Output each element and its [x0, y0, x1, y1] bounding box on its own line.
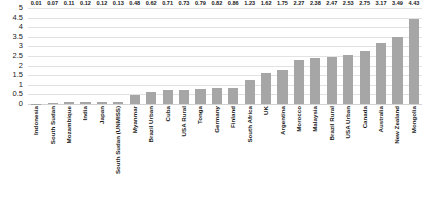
bar-slot: 0.79	[192, 8, 208, 104]
x-axis-slot: Finland	[225, 106, 241, 212]
bar-slot: 0.11	[61, 8, 77, 104]
bar[interactable]: 0.86	[228, 88, 238, 105]
x-axis-tick-label: Malaysia	[312, 106, 318, 132]
bar[interactable]: 3.49	[392, 37, 402, 104]
bar-slot: 2.53	[340, 8, 356, 104]
x-axis-tick-label: Argentina	[280, 106, 286, 135]
x-axis-slot: India	[77, 106, 93, 212]
x-axis-slot: Argentina	[274, 106, 290, 212]
x-axis-tick-label: South Sudan (UNMISS)	[115, 106, 121, 174]
bar[interactable]: 2.27	[294, 60, 304, 104]
x-axis: IndonesiaSouth SudanMozambiqueIndiaJapan…	[28, 106, 422, 212]
x-axis-slot: USA Urban	[340, 106, 356, 212]
x-axis-tick-label: Australia	[378, 106, 384, 132]
y-axis-tick-label: 3	[19, 43, 23, 51]
x-axis-tick-label: USA Urban	[345, 106, 351, 138]
bar-slot: 4.43	[406, 8, 422, 104]
bar[interactable]: 0.12	[97, 102, 107, 104]
bar[interactable]: 0.07	[48, 103, 58, 104]
bar-value-label: 2.38	[310, 1, 321, 7]
bar[interactable]: 2.53	[343, 55, 353, 104]
x-axis-slot: Tonga	[192, 106, 208, 212]
bar[interactable]: 1.62	[261, 73, 271, 104]
bar[interactable]: 0.48	[130, 95, 140, 104]
x-axis-slot: Canada	[356, 106, 372, 212]
bar-value-label: 1.75	[277, 1, 288, 7]
x-axis-slot: Brazil Rural	[324, 106, 340, 212]
bar-value-label: 0.79	[195, 1, 206, 7]
y-axis-tick-label: 1.5	[13, 71, 23, 79]
bar[interactable]: 4.43	[409, 19, 419, 104]
x-axis-slot: Mozambique	[61, 106, 77, 212]
bar-value-label: 0.71	[162, 1, 173, 7]
x-axis-tick-label: India	[82, 106, 88, 120]
bar-value-label: 0.62	[146, 1, 157, 7]
bar-slot: 2.47	[324, 8, 340, 104]
bar-slot: 0.82	[209, 8, 225, 104]
bar-value-label: 0.82	[211, 1, 222, 7]
x-axis-slot: Indonesia	[28, 106, 44, 212]
bar-slot: 2.27	[291, 8, 307, 104]
bar-value-label: 0.12	[96, 1, 107, 7]
bar-slot: 0.48	[127, 8, 143, 104]
x-axis-slot: South Sudan (UNMISS)	[110, 106, 126, 212]
y-axis-tick-label: 3.5	[13, 33, 23, 41]
bar-chart: 00.511.522.533.544.55 0.010.070.110.120.…	[0, 0, 424, 214]
bar[interactable]: 0.82	[212, 88, 222, 104]
bar[interactable]: 0.62	[146, 92, 156, 104]
bar-slot: 0.73	[176, 8, 192, 104]
bar-value-label: 0.11	[64, 1, 75, 7]
x-axis-tick-label: Tonga	[197, 106, 203, 124]
bar[interactable]: 2.47	[327, 57, 337, 104]
bar-value-label: 1.23	[244, 1, 255, 7]
bar-value-label: 0.48	[129, 1, 140, 7]
x-axis-slot: Mongolia	[406, 106, 422, 212]
x-axis-tick-label: Canada	[362, 106, 368, 128]
y-axis-tick-label: 0.5	[13, 91, 23, 99]
bar-value-label: 0.86	[228, 1, 239, 7]
x-axis-tick-label: USA Rural	[181, 106, 187, 136]
bar-value-label: 0.07	[47, 1, 58, 7]
bar-slot: 0.71	[159, 8, 175, 104]
bar-value-label: 4.43	[408, 1, 419, 7]
bar[interactable]: 0.13	[113, 102, 123, 104]
x-axis-slot: Malaysia	[307, 106, 323, 212]
bar-slot: 0.01	[28, 8, 44, 104]
x-axis-tick-label: South Sudan	[50, 106, 56, 144]
y-axis: 00.511.522.533.544.55	[0, 8, 26, 104]
bar[interactable]: 0.73	[179, 90, 189, 104]
x-axis-tick-label: Finland	[230, 106, 236, 128]
x-axis-tick-label: Cuba	[165, 106, 171, 121]
x-axis-tick-label: Japan	[99, 106, 105, 124]
x-axis-tick-label: Indonesia	[33, 106, 39, 135]
bar[interactable]: 2.75	[360, 51, 370, 104]
bar-value-label: 3.17	[376, 1, 387, 7]
bar[interactable]: 2.38	[310, 58, 320, 104]
x-axis-slot: USA Rural	[176, 106, 192, 212]
y-axis-tick-label: 4.5	[13, 14, 23, 22]
bar[interactable]: 0.79	[195, 89, 205, 104]
bar[interactable]: 0.12	[80, 102, 90, 104]
bar-slot: 0.13	[110, 8, 126, 104]
bar[interactable]: 0.71	[163, 90, 173, 104]
bar[interactable]: 0.11	[64, 102, 74, 104]
x-axis-slot: New Zealand	[389, 106, 405, 212]
bar-slot: 1.23	[241, 8, 257, 104]
bar-slot: 1.62	[258, 8, 274, 104]
y-axis-tick-label: 4	[19, 23, 23, 31]
x-axis-slot: South Sudan	[44, 106, 60, 212]
x-axis-slot: Germany	[209, 106, 225, 212]
y-axis-tick-label: 0	[19, 100, 23, 108]
bar[interactable]: 3.17	[376, 43, 386, 104]
bar-value-label: 2.27	[294, 1, 305, 7]
bar-value-label: 2.75	[359, 1, 370, 7]
bar-slot: 0.12	[77, 8, 93, 104]
y-axis-tick-label: 1	[19, 81, 23, 89]
bar-slot: 0.12	[94, 8, 110, 104]
bar-slot: 0.62	[143, 8, 159, 104]
bar-value-label: 2.47	[326, 1, 337, 7]
x-axis-tick-label: Morocco	[296, 106, 302, 132]
bar[interactable]: 1.75	[277, 70, 287, 104]
bar-value-label: 0.01	[31, 1, 42, 7]
bar[interactable]: 1.23	[245, 80, 255, 104]
